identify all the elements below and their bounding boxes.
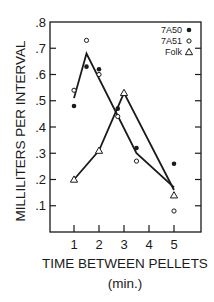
legend-label: 7A50 [161,25,182,35]
x-tick-label: 5 [170,237,177,252]
y-tick-label: .6 [35,67,46,82]
y-axis-title: MILLILITERS PER INTERVAL [13,40,28,222]
legend-label: Folk [165,47,183,57]
x-tick-label: 3 [120,237,127,252]
filled-circle-marker [97,67,102,72]
y-tick-label: .2 [35,172,46,187]
open-triangle-marker [185,48,192,54]
open-circle-marker [187,39,191,43]
x-axis-ticks: 12345 [70,225,177,252]
open-circle-marker [97,72,101,76]
open-circle-marker [72,88,76,92]
filled-circle-marker [84,64,89,69]
y-tick-label: .3 [35,146,46,161]
chart-canvas: .1.2.3.4.5.6.7.8 12345 7A507A51Folk MILL… [0,0,214,302]
open-circle-marker [172,209,176,213]
data-markers [70,38,177,213]
x-axis-units: (min.) [108,276,143,291]
x-tick-label: 4 [145,237,152,252]
x-tick-label: 1 [70,237,77,252]
open-triangle-marker [170,192,177,198]
legend: 7A507A51Folk [161,25,193,57]
y-tick-label: .5 [35,93,46,108]
fit-line [74,93,174,190]
y-tick-label: .1 [35,198,46,213]
legend-label: 7A51 [161,36,182,46]
filled-circle-marker [187,28,192,33]
x-tick-label: 2 [95,237,102,252]
open-circle-marker [84,38,88,42]
open-triangle-marker [120,89,127,95]
filled-circle-marker [115,106,120,111]
x-axis-title: TIME BETWEEN PELLETS [42,256,208,271]
filled-circle-marker [134,146,139,151]
fit-lines [74,54,174,191]
fit-line [74,54,174,188]
open-circle-marker [134,159,138,163]
open-circle-marker [116,114,120,118]
filled-circle-marker [172,161,177,166]
y-tick-label: .4 [35,120,46,135]
open-triangle-marker [95,147,102,153]
y-tick-label: .7 [35,41,46,56]
y-tick-label: .8 [35,15,46,30]
filled-circle-marker [72,104,77,109]
